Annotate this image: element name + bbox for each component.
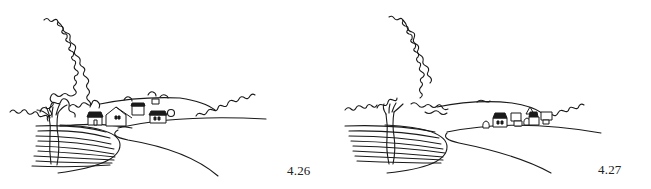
figure-caption: 4.26	[287, 163, 311, 179]
figure-caption: 4.27	[598, 162, 622, 178]
figure-4-26: 4.26	[0, 0, 325, 189]
landscape-illustration-distant-village	[325, 0, 651, 189]
landscape-illustration-near-houses	[0, 0, 325, 189]
figure-4-27: 4.27	[325, 0, 651, 189]
